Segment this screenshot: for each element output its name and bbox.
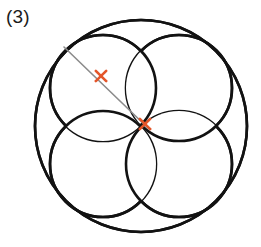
x-marker-outer [96, 71, 106, 81]
circle-pinwheel-diagram [0, 0, 261, 247]
figure-container: (3) [0, 0, 261, 247]
